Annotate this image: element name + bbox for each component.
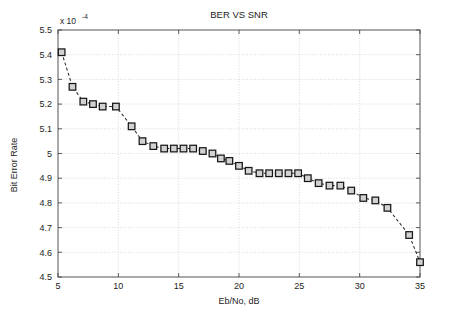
data-point-marker xyxy=(226,158,233,165)
y-axis-multiplier: x 10 xyxy=(60,16,76,26)
data-point-marker xyxy=(348,187,355,194)
data-point-marker xyxy=(384,205,391,212)
y-tick-labels: 4.54.64.74.84.955.15.25.35.45.5 xyxy=(39,25,52,282)
x-tick-label: 25 xyxy=(294,281,304,291)
data-point-marker xyxy=(406,232,413,239)
data-point-marker xyxy=(245,167,252,174)
x-tick-labels: 5101520253035 xyxy=(55,281,425,291)
y-tick-label: 5.2 xyxy=(39,99,52,109)
data-point-marker xyxy=(180,145,187,152)
data-point-marker xyxy=(190,145,197,152)
y-tick-label: 4.9 xyxy=(39,173,52,183)
x-tick-label: 5 xyxy=(55,281,60,291)
y-tick-label: 5.5 xyxy=(39,25,52,35)
data-point-marker xyxy=(266,170,273,177)
y-tick-label: 5.3 xyxy=(39,75,52,85)
data-point-marker xyxy=(295,170,302,177)
data-point-marker xyxy=(304,175,311,182)
x-axis-label: Eb/No, dB xyxy=(218,296,259,306)
data-point-marker xyxy=(276,170,283,177)
data-point-marker xyxy=(200,148,207,155)
x-tick-label: 20 xyxy=(234,281,244,291)
data-point-marker xyxy=(315,180,322,187)
data-point-marker xyxy=(80,98,87,105)
chart-title: BER VS SNR xyxy=(210,9,268,20)
x-tick-label: 10 xyxy=(113,281,123,291)
series-polyline xyxy=(62,52,420,262)
chart-figure: 5101520253035 4.54.64.74.84.955.15.25.35… xyxy=(0,0,460,318)
data-point-marker xyxy=(171,145,178,152)
data-point-marker xyxy=(58,49,65,56)
data-point-marker xyxy=(256,170,263,177)
y-axis-label: Bit Error Rate xyxy=(9,138,19,193)
ber-vs-snr-chart: 5101520253035 4.54.64.74.84.955.15.25.35… xyxy=(0,0,460,318)
data-point-marker xyxy=(150,143,157,150)
data-point-marker xyxy=(69,84,76,91)
data-point-marker xyxy=(326,182,333,189)
x-tick-label: 35 xyxy=(415,281,425,291)
y-tick-label: 4.7 xyxy=(39,223,52,233)
y-tick-label: 5.4 xyxy=(39,50,52,60)
y-tick-label: 5.1 xyxy=(39,124,52,134)
y-tick-label: 4.5 xyxy=(39,272,52,282)
data-point-marker xyxy=(218,155,225,162)
y-tick-label: 5 xyxy=(47,149,52,159)
data-point-marker xyxy=(417,259,424,266)
data-point-markers xyxy=(58,49,423,266)
data-series-line xyxy=(62,52,420,262)
data-point-marker xyxy=(161,145,168,152)
y-tick-label: 4.6 xyxy=(39,248,52,258)
y-tick-label: 4.8 xyxy=(39,198,52,208)
data-point-marker xyxy=(209,150,216,157)
data-point-marker xyxy=(99,103,106,110)
grid-lines xyxy=(58,30,420,277)
data-point-marker xyxy=(337,182,344,189)
data-point-marker xyxy=(139,138,146,145)
data-point-marker xyxy=(90,101,97,108)
data-point-marker xyxy=(236,163,243,170)
data-point-marker xyxy=(113,103,120,110)
x-tick-label: 30 xyxy=(355,281,365,291)
data-point-marker xyxy=(360,195,367,202)
data-point-marker xyxy=(372,197,379,204)
x-tick-label: 15 xyxy=(174,281,184,291)
y-axis-multiplier-exponent: -4 xyxy=(82,13,88,20)
data-point-marker xyxy=(128,123,135,130)
data-point-marker xyxy=(285,170,292,177)
